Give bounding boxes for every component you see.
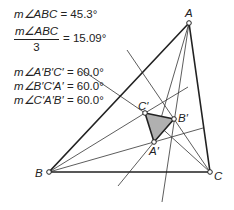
label-c-prime: C′ [138, 100, 149, 112]
point-b[interactable] [47, 170, 52, 175]
point-c[interactable] [208, 170, 213, 175]
label-c: C [214, 170, 223, 182]
label-a-prime: A′ [148, 145, 160, 157]
label-b-prime: B′ [178, 112, 189, 124]
trisector-c1-ext [82, 70, 145, 113]
label-b: B [35, 167, 43, 179]
point-a-prime[interactable] [152, 140, 157, 145]
trisector-c2-ext [127, 50, 174, 119]
point-b-prime[interactable] [172, 117, 177, 122]
morley-triangle-diagram: A B C C′ B′ A′ [0, 0, 234, 210]
trisector-b2 [49, 142, 154, 172]
trisector-b1-ext [145, 87, 188, 113]
label-a: A [184, 7, 193, 19]
point-a[interactable] [187, 21, 192, 26]
trisector-c2 [174, 119, 210, 172]
